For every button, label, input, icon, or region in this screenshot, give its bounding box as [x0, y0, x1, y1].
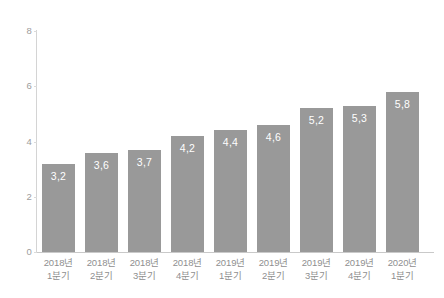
bar-value-label: 4,6	[257, 131, 290, 143]
bar[interactable]: 3,7	[128, 150, 161, 252]
category-label-line1: 2019년	[209, 256, 252, 269]
category-label: 2018년 1분기	[37, 256, 80, 282]
bar-chart: 8 6 4 2 0 3,2 3,6 3,7 4,2	[0, 0, 444, 298]
bar[interactable]: 4,6	[257, 125, 290, 252]
bar-group: 3,6	[80, 30, 123, 252]
y-tick-label: 2	[4, 192, 32, 202]
category-label-line2: 3분기	[295, 269, 338, 282]
category-label: 2018년 2분기	[80, 256, 123, 282]
category-label-line2: 4분기	[338, 269, 381, 282]
category-label: 2019년 3분기	[295, 256, 338, 282]
category-label-line1: 2018년	[80, 256, 123, 269]
bar-value-label: 5,8	[386, 98, 419, 110]
bar-group: 4,4	[209, 30, 252, 252]
category-label-line1: 2019년	[252, 256, 295, 269]
bar[interactable]: 4,2	[171, 136, 204, 252]
bar-value-label: 4,4	[214, 136, 247, 148]
category-label: 2018년 4분기	[166, 256, 209, 282]
bar-group: 3,7	[123, 30, 166, 252]
bar-value-label: 3,7	[128, 156, 161, 168]
bar-group: 5,3	[338, 30, 381, 252]
category-label-line1: 2020년	[381, 256, 424, 269]
category-label: 2018년 3분기	[123, 256, 166, 282]
bar[interactable]: 3,6	[85, 153, 118, 253]
category-label-line1: 2019년	[295, 256, 338, 269]
bar[interactable]: 5,8	[386, 92, 419, 252]
category-label-line1: 2018년	[123, 256, 166, 269]
category-label-line2: 1분기	[209, 269, 252, 282]
bar-value-label: 3,6	[85, 159, 118, 171]
bar-value-label: 5,3	[343, 112, 376, 124]
bar-value-label: 3,2	[42, 170, 75, 182]
category-label: 2019년 1분기	[209, 256, 252, 282]
bar-value-label: 4,2	[171, 142, 204, 154]
bar-group: 3,2	[37, 30, 80, 252]
bar-value-label: 5,2	[300, 114, 333, 126]
y-tick-label: 0	[4, 247, 32, 257]
y-axis-tick-labels: 8 6 4 2 0	[0, 0, 32, 298]
y-tick-label: 4	[4, 137, 32, 147]
bar[interactable]: 5,2	[300, 108, 333, 252]
bar-group: 5,2	[295, 30, 338, 252]
y-tick-label: 8	[4, 26, 32, 36]
x-axis-category-labels: 2018년 1분기 2018년 2분기 2018년 3분기 2018년 4분기 …	[37, 256, 437, 298]
bar-group: 5,8	[381, 30, 424, 252]
category-label-line2: 2분기	[252, 269, 295, 282]
category-label-line2: 1분기	[381, 269, 424, 282]
category-label-line2: 1분기	[37, 269, 80, 282]
bar-group: 4,6	[252, 30, 295, 252]
category-label: 2019년 2분기	[252, 256, 295, 282]
bars-layer: 3,2 3,6 3,7 4,2 4,4 4,6	[37, 0, 437, 298]
category-label-line2: 2분기	[80, 269, 123, 282]
category-label-line2: 3분기	[123, 269, 166, 282]
category-label: 2019년 4분기	[338, 256, 381, 282]
bar-group: 4,2	[166, 30, 209, 252]
category-label-line1: 2018년	[166, 256, 209, 269]
category-label-line1: 2019년	[338, 256, 381, 269]
bar[interactable]: 5,3	[343, 106, 376, 252]
category-label-line1: 2018년	[37, 256, 80, 269]
category-label-line2: 4분기	[166, 269, 209, 282]
bar[interactable]: 4,4	[214, 130, 247, 252]
y-tick-label: 6	[4, 81, 32, 91]
category-label: 2020년 1분기	[381, 256, 424, 282]
bar[interactable]: 3,2	[42, 164, 75, 252]
